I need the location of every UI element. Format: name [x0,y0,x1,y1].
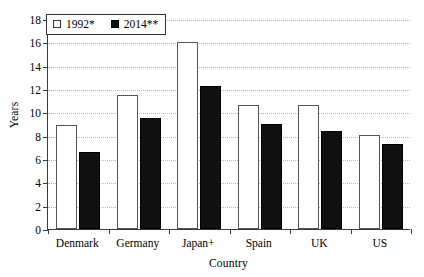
y-axis-tick [43,67,48,68]
x-axis-tick-label: US [330,236,424,250]
y-axis-tick [43,43,48,44]
y-axis-tick [43,90,48,91]
bar [79,152,100,229]
bar-group [359,20,403,229]
legend-label: 2014** [124,17,159,31]
bar [117,95,138,229]
legend-entry: 1992* [53,17,95,31]
bar-group [238,20,282,229]
bar [238,105,259,229]
legend-label: 1992* [66,17,95,31]
bar [140,118,161,229]
x-axis-tick [230,229,231,234]
x-axis-tick [351,229,352,234]
y-axis-tick [43,183,48,184]
y-axis-tick [43,160,48,161]
gridline [48,183,410,184]
bar [177,42,198,229]
x-axis-tick [411,229,412,234]
filled-square-icon [111,20,119,28]
gridline [48,160,410,161]
open-square-icon [53,20,61,28]
x-axis-tick [48,229,49,234]
gridline [48,207,410,208]
bar [56,125,77,229]
gridline [48,113,410,114]
x-axis-tick [169,229,170,234]
legend-entry: 2014** [111,17,159,31]
bar [261,124,282,229]
y-axis-tick [43,137,48,138]
x-axis-title: Country [47,256,410,270]
bar [200,86,221,230]
x-axis-tick [290,229,291,234]
plot-area: 024681012141618 [47,20,410,230]
gridline [48,67,410,68]
bar [359,135,380,230]
y-axis-title: Years [7,0,21,230]
chart-legend: 1992* 2014** [46,14,166,35]
bar [382,144,403,229]
y-axis-tick [43,207,48,208]
bar-group [298,20,342,229]
bar [321,131,342,229]
gridline [48,137,410,138]
gridline [48,43,410,44]
x-axis-tick [109,229,110,234]
bar-group [56,20,100,229]
y-axis-tick [43,113,48,114]
bar-chart: Years 024681012141618 DenmarkGermanyJapa… [0,0,424,277]
gridline [48,90,410,91]
bar-group [117,20,161,229]
bar-group [177,20,221,229]
bar [298,105,319,229]
